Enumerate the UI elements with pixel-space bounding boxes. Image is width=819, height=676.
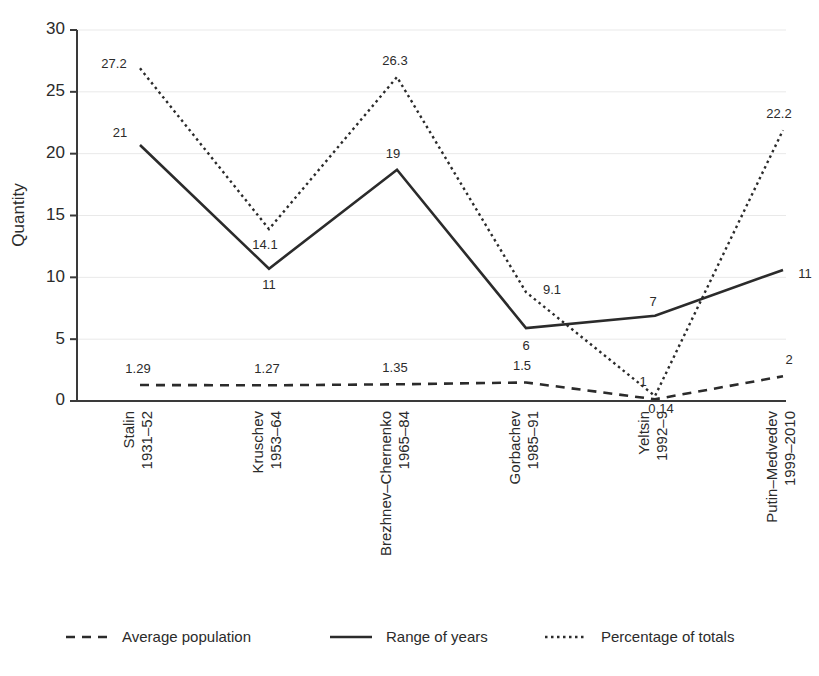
data-series-group [140, 68, 783, 399]
y-tick-label: 15 [46, 205, 65, 224]
y-tick-labels: 051015202530 [46, 19, 65, 409]
data-point-labels: 1.291.271.351.50.142211119671127.214.126… [101, 53, 811, 416]
x-tick-label-name: Yeltsin [635, 411, 652, 455]
legend-label: Average population [122, 628, 251, 645]
y-tick-label: 0 [56, 390, 65, 409]
x-tick-label-name: Gorbachev [506, 411, 523, 485]
legend-label: Range of years [386, 628, 488, 645]
series-line-solid [140, 145, 783, 328]
x-tick-label-group: Stalin1931–52 [120, 411, 155, 469]
x-tick-label-name: Kruschev [249, 411, 266, 474]
data-point-label: 14.1 [252, 237, 277, 252]
data-point-label: 22.2 [766, 106, 791, 121]
y-tick-label: 20 [46, 143, 65, 162]
x-tick-label-years: 1985–91 [524, 411, 541, 469]
x-tick-label-name: Putin–Medvedev [763, 411, 780, 523]
data-point-label: 2 [785, 352, 792, 367]
x-tick-label-group: Putin–Medvedev1999–2010 [763, 411, 798, 523]
data-point-label: 1 [639, 374, 646, 389]
x-tick-label-group: Kruschev1953–64 [249, 411, 284, 474]
line-chart-svg: 051015202530 Quantity 1.291.271.351.50.1… [0, 0, 819, 676]
data-point-label: 11 [798, 266, 812, 281]
y-tick-label: 25 [46, 81, 65, 100]
x-tick-labels: Stalin1931–52Kruschev1953–64Brezhnev–Che… [120, 411, 798, 557]
x-tick-label-group: Brezhnev–Chernenko1965–84 [377, 411, 412, 556]
x-tick-label-years: 1999–2010 [781, 411, 798, 486]
data-point-label: 1.29 [125, 361, 150, 376]
x-tick-label-name: Stalin [120, 411, 137, 449]
data-point-label: 9.1 [543, 282, 561, 297]
x-tick-label-years: 1992–9 [653, 411, 670, 461]
x-tick-label-years: 1953–64 [267, 411, 284, 469]
data-point-label: 6 [522, 338, 529, 353]
y-axis-title: Quantity [9, 183, 28, 247]
series-line-dotted [140, 68, 783, 396]
data-point-label: 1.27 [254, 361, 279, 376]
legend-label: Percentage of totals [601, 628, 734, 645]
x-tick-label-years: 1965–84 [395, 411, 412, 469]
data-point-label: 1.5 [513, 358, 531, 373]
y-tick-label: 30 [46, 19, 65, 38]
y-tick-marks [70, 30, 77, 401]
y-tick-label: 5 [56, 329, 65, 348]
legend-item[interactable]: Average population [66, 628, 251, 645]
x-tick-label-name: Brezhnev–Chernenko [377, 411, 394, 556]
gridlines [77, 30, 786, 339]
legend-item[interactable]: Percentage of totals [545, 628, 734, 645]
data-point-label: 1.35 [382, 360, 407, 375]
chart-legend: Average populationRange of yearsPercenta… [66, 628, 734, 645]
data-point-label: 11 [262, 277, 276, 292]
chart-figure: 051015202530 Quantity 1.291.271.351.50.1… [0, 0, 819, 676]
data-point-label: 21 [113, 125, 127, 140]
data-point-label: 19 [386, 146, 400, 161]
data-point-label: 7 [649, 294, 656, 309]
data-point-label: 27.2 [101, 56, 126, 71]
x-tick-label-years: 1931–52 [138, 411, 155, 469]
y-tick-label: 10 [46, 267, 65, 286]
legend-item[interactable]: Range of years [330, 628, 488, 645]
x-tick-label-group: Gorbachev1985–91 [506, 411, 541, 485]
x-tick-label-group: Yeltsin1992–9 [635, 411, 670, 461]
series-line-dashed [140, 376, 783, 399]
data-point-label: 26.3 [382, 53, 407, 68]
